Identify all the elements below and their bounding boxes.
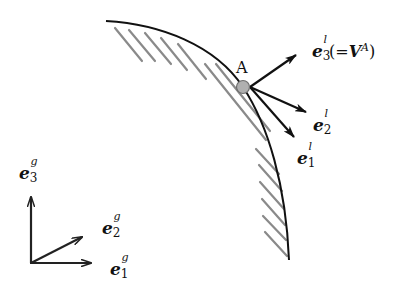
diagram-canvas: A e3l(=VA) e2l e1l e3g e2g e1g [0, 0, 403, 282]
hatch-pattern [115, 28, 287, 256]
global-e2-arrow [31, 237, 82, 263]
local-vectors [250, 55, 306, 137]
point-a-label: A [235, 58, 248, 77]
local-e3-label: e3l(=VA) [312, 33, 375, 63]
local-e2-label: e2l [313, 107, 331, 137]
local-e1-label: e1l [297, 140, 315, 170]
local-e3-arrow [250, 55, 296, 87]
global-vectors [30, 197, 91, 263]
local-e2-arrow [250, 87, 306, 112]
point-a-marker [237, 81, 250, 94]
global-e1-label: e1g [110, 251, 129, 281]
global-e2-label: e2g [102, 210, 121, 240]
global-e3-label: e3g [19, 155, 38, 185]
surface-curve [106, 21, 289, 260]
